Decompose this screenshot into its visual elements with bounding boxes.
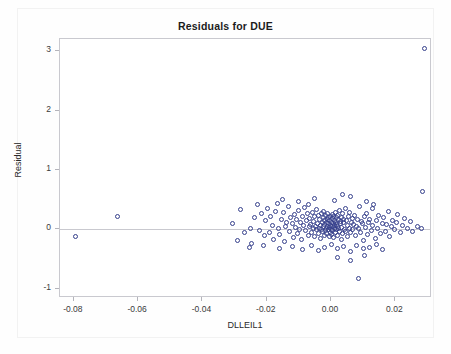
data-point bbox=[364, 211, 369, 216]
y-axis-label: Residual bbox=[13, 120, 23, 200]
data-point bbox=[277, 246, 282, 251]
data-point bbox=[273, 209, 278, 214]
data-point bbox=[420, 189, 425, 194]
data-point bbox=[296, 208, 301, 213]
data-point bbox=[402, 216, 407, 221]
data-point bbox=[340, 211, 345, 216]
data-point bbox=[312, 196, 317, 201]
data-point bbox=[265, 206, 270, 211]
data-point bbox=[306, 202, 311, 207]
data-point bbox=[73, 234, 78, 239]
data-point bbox=[369, 228, 374, 233]
data-point bbox=[356, 276, 361, 281]
y-tick-label: 0 bbox=[25, 222, 51, 232]
data-point bbox=[339, 237, 344, 242]
data-point bbox=[374, 242, 379, 247]
data-point bbox=[374, 218, 379, 223]
data-point bbox=[257, 228, 262, 233]
data-point bbox=[380, 247, 385, 252]
data-point bbox=[259, 211, 264, 216]
chart-title: Residuals for DUE bbox=[0, 20, 451, 32]
data-point bbox=[281, 210, 286, 215]
data-point bbox=[394, 220, 399, 225]
x-tick-label: -0.06 bbox=[117, 304, 157, 314]
data-point bbox=[329, 242, 334, 247]
data-point bbox=[255, 202, 260, 207]
data-point bbox=[408, 219, 413, 224]
data-point bbox=[286, 204, 291, 209]
data-point bbox=[348, 249, 353, 254]
data-point bbox=[335, 246, 340, 251]
x-axis-label: DLLEIL1 bbox=[59, 320, 431, 330]
data-point bbox=[370, 206, 375, 211]
x-tick-mark bbox=[73, 297, 74, 301]
y-tick-mark bbox=[55, 228, 59, 229]
data-point bbox=[392, 227, 397, 232]
data-point bbox=[361, 238, 366, 243]
data-point bbox=[276, 226, 281, 231]
data-point bbox=[263, 218, 268, 223]
data-point bbox=[386, 209, 391, 214]
data-point bbox=[383, 229, 388, 234]
y-tick-mark bbox=[55, 169, 59, 170]
data-point bbox=[248, 226, 253, 231]
data-point bbox=[345, 234, 350, 239]
data-point bbox=[235, 238, 240, 243]
data-point bbox=[238, 207, 243, 212]
data-point bbox=[316, 248, 321, 253]
data-point bbox=[422, 46, 427, 51]
data-point bbox=[419, 226, 424, 231]
data-point bbox=[381, 215, 386, 220]
data-point bbox=[341, 244, 346, 249]
data-point bbox=[267, 230, 272, 235]
data-point bbox=[361, 246, 366, 251]
data-point bbox=[335, 255, 340, 260]
data-point bbox=[395, 212, 400, 217]
data-point bbox=[115, 214, 120, 219]
x-tick-label: 0.02 bbox=[374, 304, 414, 314]
data-point bbox=[284, 220, 289, 225]
data-point bbox=[354, 243, 359, 248]
x-tick-label: 0.00 bbox=[310, 304, 350, 314]
data-point bbox=[261, 243, 266, 248]
data-point bbox=[322, 245, 327, 250]
data-point bbox=[353, 233, 358, 238]
data-point bbox=[373, 236, 378, 241]
data-point bbox=[268, 214, 273, 219]
x-tick-mark bbox=[266, 297, 267, 301]
data-point bbox=[299, 237, 304, 242]
data-point bbox=[362, 253, 367, 258]
data-point bbox=[367, 217, 372, 222]
y-tick-mark bbox=[55, 288, 59, 289]
y-tick-label: 2 bbox=[25, 104, 51, 114]
y-tick-label: 1 bbox=[25, 163, 51, 173]
data-point bbox=[279, 217, 284, 222]
data-point bbox=[314, 207, 319, 212]
x-tick-mark bbox=[137, 297, 138, 301]
data-point bbox=[262, 233, 267, 238]
data-point bbox=[365, 232, 370, 237]
data-point bbox=[296, 199, 301, 204]
data-point bbox=[363, 225, 368, 230]
x-tick-label: -0.02 bbox=[246, 304, 286, 314]
data-point bbox=[275, 201, 280, 206]
data-point bbox=[271, 237, 276, 242]
data-point bbox=[387, 234, 392, 239]
data-point bbox=[309, 243, 314, 248]
data-point bbox=[367, 245, 372, 250]
data-point bbox=[252, 215, 257, 220]
y-tick-label: -1 bbox=[25, 282, 51, 292]
data-point bbox=[292, 212, 297, 217]
scatter-plot-screenshot: Residuals for DUE -0.08-0.06-0.04-0.020.… bbox=[0, 0, 451, 354]
data-point bbox=[340, 192, 345, 197]
data-point bbox=[247, 245, 252, 250]
x-tick-label: -0.04 bbox=[181, 304, 221, 314]
data-point bbox=[398, 230, 403, 235]
data-point bbox=[291, 235, 296, 240]
data-point bbox=[410, 229, 415, 234]
plot-area bbox=[60, 39, 430, 296]
data-point bbox=[230, 221, 235, 226]
y-tick-mark bbox=[55, 50, 59, 51]
data-point bbox=[364, 199, 369, 204]
data-point bbox=[282, 239, 287, 244]
